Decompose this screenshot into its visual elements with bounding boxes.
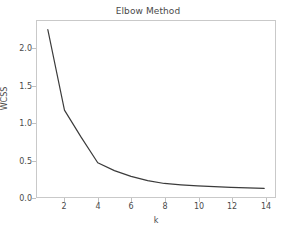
ytick-label-1: 0.5 [8, 157, 32, 166]
x-axis-label: k [36, 216, 276, 225]
plot-area [36, 20, 276, 198]
xtick-label-1: 4 [88, 202, 108, 211]
chart-title: Elbow Method [0, 6, 296, 16]
ytick-mark [32, 123, 36, 124]
xtick-label-5: 12 [222, 202, 242, 211]
y-axis-label: WCSS [0, 79, 9, 119]
ytick-label-2: 1.0 [8, 119, 32, 128]
ytick-mark [32, 86, 36, 87]
xtick-label-2: 6 [121, 202, 141, 211]
xtick-label-4: 10 [189, 202, 209, 211]
xtick-label-6: 14 [256, 202, 276, 211]
line-series-svg [37, 21, 275, 197]
chart-figure: Elbow Method 0.0 0.5 1.0 1.5 2.0 2 4 6 8… [0, 0, 296, 238]
ytick-label-0: 0.0 [8, 194, 32, 203]
ytick-mark [32, 48, 36, 49]
ytick-label-3: 1.5 [8, 82, 32, 91]
ytick-mark [32, 198, 36, 199]
xtick-label-0: 2 [54, 202, 74, 211]
wcss-line-series [48, 30, 264, 189]
ytick-label-4: 2.0 [8, 44, 32, 53]
ytick-mark [32, 161, 36, 162]
xtick-label-3: 8 [155, 202, 175, 211]
